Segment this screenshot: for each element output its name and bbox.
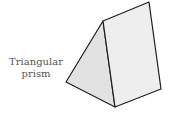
triangular-prism-figure <box>0 0 172 116</box>
